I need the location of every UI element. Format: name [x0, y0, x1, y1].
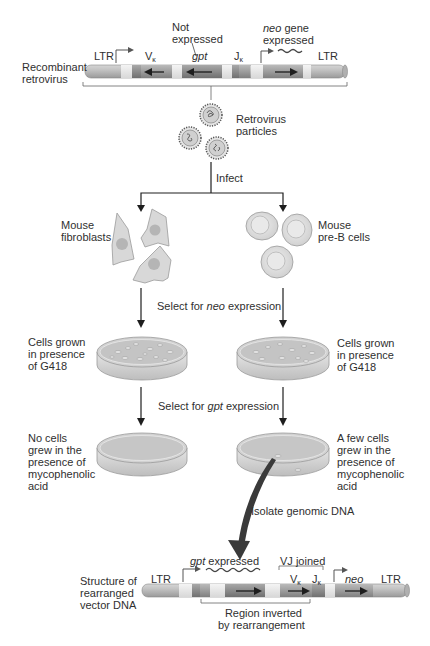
arrow-down-icon [137, 320, 145, 328]
neo-gene-expressed-label: neo gene expressed [263, 22, 314, 46]
ltr-left-label: LTR [94, 50, 114, 62]
j-kappa-label-bottom: Jκ [312, 573, 321, 589]
right-g418-label: Cells grown in presence of G418 [337, 337, 394, 373]
ltr-right-label-bottom: LTR [381, 573, 401, 585]
ltr-promoter-arrow-icon [183, 569, 197, 582]
right-plate-g418 [237, 337, 329, 380]
neo-transcript-wave-icon [278, 50, 302, 53]
neo-label-bottom: neo [345, 573, 363, 585]
infect-label: Infect [216, 172, 243, 184]
few-cells-grew-label: A few cells grew in the presence of myco… [337, 432, 404, 492]
retrovirus-particles-icon [179, 104, 228, 159]
not-expressed-label: Not expressed [172, 21, 223, 45]
mouse-preb-cells-label: Mouse pre-B cells [318, 219, 370, 243]
select-neo-label: Select for neo expression [157, 300, 281, 312]
ltr-right-label: LTR [318, 50, 338, 62]
construct-bracket [83, 82, 347, 86]
arrow-to-fibroblasts-icon [137, 205, 145, 212]
preb-cells-icon [246, 212, 312, 278]
left-plate-mycophenolic [97, 433, 187, 476]
diagram-canvas [0, 0, 430, 646]
region-inverted-label: Region inverted by rearrangement [218, 607, 305, 631]
recombinant-retrovirus-label: Recombinant retrovirus [22, 61, 87, 85]
arrow-down-icon [279, 418, 287, 426]
arrow-down-icon [137, 418, 145, 426]
fibroblast-cells-icon [112, 209, 171, 283]
isolate-genomic-dna-label: Isolate genomic DNA [251, 505, 354, 517]
rearranged-vector-label: Structure of rearranged vector DNA [80, 575, 137, 611]
no-cells-grew-label: No cells grew in the presence of mycophe… [28, 432, 95, 492]
j-kappa-label: Jκ [234, 50, 243, 66]
bottom-vector-tube [142, 584, 410, 597]
ltr-left-label-bottom: LTR [151, 573, 171, 585]
gpt-transcript-wave-icon [206, 569, 260, 572]
gpt-expressed-label: gpt expressed [190, 555, 259, 567]
arrow-to-preb-icon [279, 205, 287, 212]
left-plate-g418 [97, 337, 187, 380]
arrow-down-icon [279, 320, 287, 328]
ltr-promoter-arrow-icon [116, 50, 130, 63]
retrovirus-particles-label: Retrovirus particles [236, 113, 286, 137]
top-vector-tube [85, 65, 348, 78]
gpt-label: gpt [192, 50, 207, 62]
select-gpt-label: Select for gpt expression [158, 400, 279, 412]
v-kappa-label: Vκ [145, 50, 156, 66]
right-plate-mycophenolic [237, 433, 329, 476]
region-inverted-bracket [201, 599, 310, 603]
vj-joined-label: VJ joined [280, 555, 325, 567]
v-kappa-label-bottom: Vκ [290, 573, 301, 589]
left-g418-label: Cells grown in presence of G418 [28, 336, 85, 372]
mouse-fibroblasts-label: Mouse fibroblasts [61, 219, 111, 243]
